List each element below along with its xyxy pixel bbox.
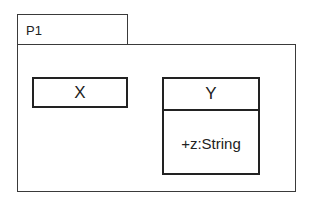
class-y-name: Y [205,84,216,104]
package-tab: P1 [17,14,128,45]
class-y: Y +z:String [162,77,260,175]
class-y-attribute: +z:String [181,135,241,152]
package-name: P1 [26,23,42,38]
class-y-header: Y [164,79,258,111]
class-y-attributes: +z:String [164,111,258,175]
class-x: X [32,77,128,108]
class-x-name: X [74,83,85,103]
